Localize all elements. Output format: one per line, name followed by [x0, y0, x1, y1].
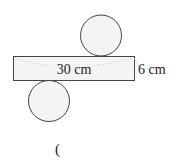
cylinder-net-diagram: 30 cm 6 cm ( — [0, 0, 193, 168]
width-label: 30 cm — [57, 62, 92, 77]
top-base-circle — [81, 15, 122, 56]
height-label: 6 cm — [138, 62, 166, 77]
answer-paren: ( — [55, 141, 60, 158]
bottom-base-circle — [29, 81, 70, 122]
